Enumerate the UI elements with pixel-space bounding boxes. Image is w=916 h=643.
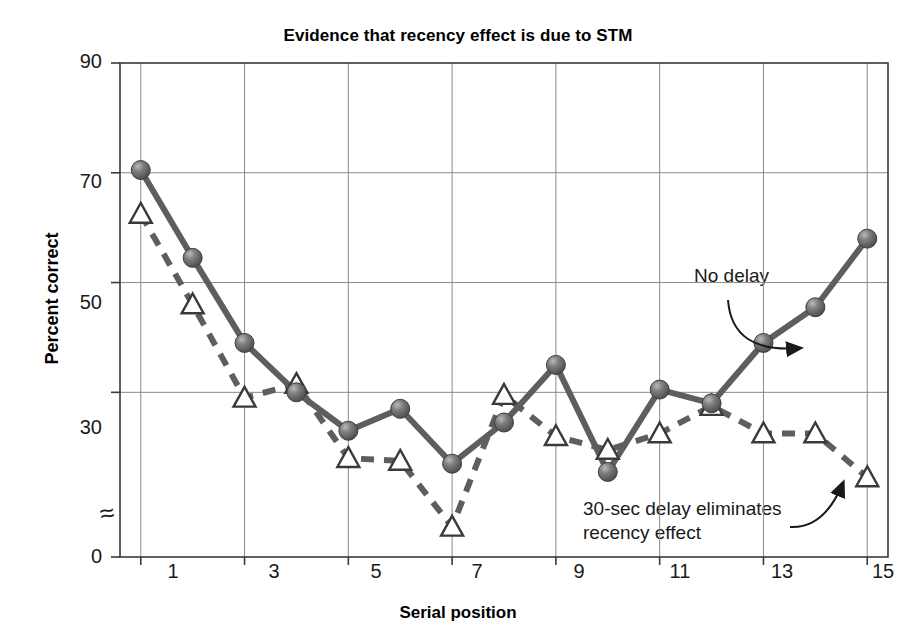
gridlines bbox=[120, 63, 888, 557]
chart-figure: Evidence that recency effect is due to S… bbox=[0, 0, 916, 643]
series-delay-markers bbox=[130, 203, 878, 536]
plot-area bbox=[0, 0, 916, 643]
annotation-arrows bbox=[728, 300, 843, 527]
series-delay-line bbox=[141, 214, 867, 527]
axis-frame bbox=[120, 63, 888, 557]
y-tick-marks bbox=[111, 63, 120, 557]
x-tick-marks bbox=[141, 557, 867, 565]
